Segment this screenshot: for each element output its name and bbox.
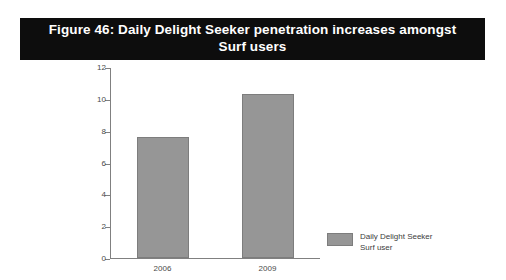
figure-title-banner: Figure 46: Daily Delight Seeker penetrat… xyxy=(20,18,485,60)
bar-chart: 024681012 20062009 Daily Delight Seeker … xyxy=(0,62,506,280)
y-tick-label: 10 xyxy=(97,96,106,104)
y-tick-label: 12 xyxy=(97,64,106,72)
bar-2009 xyxy=(242,94,294,258)
bar-2006 xyxy=(137,137,189,258)
page-title: Figure 46: Daily Delight Seeker penetrat… xyxy=(42,22,463,56)
x-tick-label: 2009 xyxy=(259,265,277,273)
y-axis-line xyxy=(110,68,111,259)
y-tick-label: 0 xyxy=(102,255,106,263)
y-tick-label: 2 xyxy=(102,223,106,231)
y-tick-label: 8 xyxy=(102,128,106,136)
y-tick-label: 6 xyxy=(102,160,106,168)
x-tick-label: 2006 xyxy=(154,265,172,273)
y-tick-label: 4 xyxy=(102,191,106,199)
chart-legend: Daily Delight Seeker Surf user xyxy=(327,232,432,254)
plot-area: 024681012 20062009 xyxy=(110,68,320,259)
x-axis-line xyxy=(110,258,320,259)
legend-label: Daily Delight Seeker Surf user xyxy=(360,232,432,254)
legend-swatch-daily-delight-seeker-surf-user xyxy=(327,233,353,246)
